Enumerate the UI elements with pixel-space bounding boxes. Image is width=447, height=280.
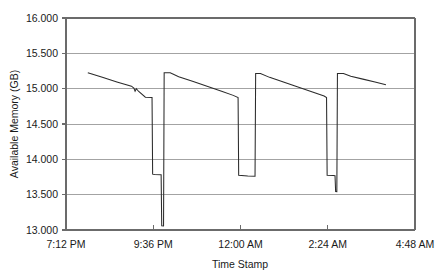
- y-tick-label: 14.000: [26, 153, 58, 165]
- y-tick-label: 13.000: [26, 224, 58, 236]
- x-tick-label: 4:48 AM: [396, 238, 435, 250]
- x-tick-label: 12:00 AM: [218, 238, 262, 250]
- y-axis-title: Available Memory (GB): [8, 70, 20, 178]
- y-tick-label: 14.500: [26, 118, 58, 130]
- x-tick-label: 9:36 PM: [134, 238, 173, 250]
- x-tick-label: 7:12 PM: [46, 238, 85, 250]
- y-tick-label: 15.500: [26, 47, 58, 59]
- y-tick-label: 13.500: [26, 188, 58, 200]
- x-axis-title: Time Stamp: [212, 258, 268, 270]
- available-memory-line-chart: 13.00013.50014.00014.50015.00015.50016.0…: [0, 0, 447, 280]
- chart-screenshot: 13.00013.50014.00014.50015.00015.50016.0…: [0, 0, 447, 280]
- y-tick-label: 15.000: [26, 82, 58, 94]
- y-tick-label: 16.000: [26, 12, 58, 24]
- x-tick-label: 2:24 AM: [308, 238, 347, 250]
